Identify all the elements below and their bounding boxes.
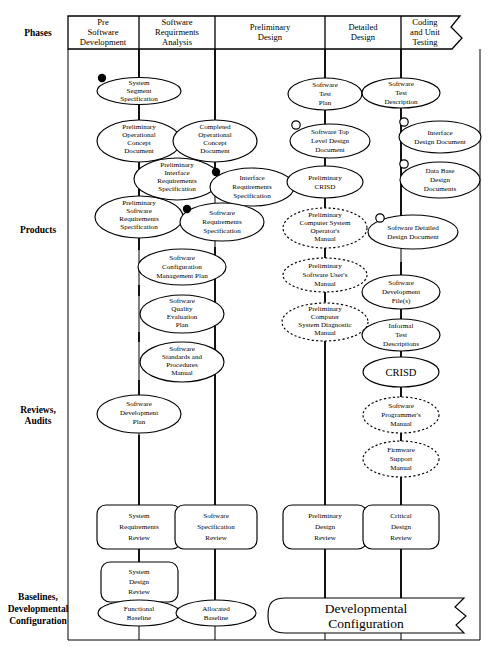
phase-line-2: Software [87,27,118,37]
node-line: Evaluation [167,313,198,321]
product-node-preliminary-computer-system-diagnostic-manual[interactable]: Preliminary Computer System Diagnostic M… [282,303,368,341]
node-line: Test [395,89,407,97]
node-line: Requirements [119,523,159,531]
node-line: Procedures [166,361,198,369]
filled-marker-icon [212,168,220,176]
node-line: Software [388,279,414,287]
baseline-node-functional-baseline[interactable]: Functional Baseline [98,600,180,626]
product-node-software-standards-and-procedures-manual[interactable]: Software Standards and Procedures Manual [140,342,224,382]
lifecycle-diagram: Pre Software Development Software Requir… [0,0,496,653]
node-line: Preliminary [308,174,342,182]
product-node-software-quality-evaluation-plan[interactable]: Software Quality Evaluation Plan [140,295,224,333]
filled-marker-icon [98,74,106,82]
product-node-system-segment-specification[interactable]: System Segment Specification [97,74,181,105]
node-line: Segment [127,87,152,95]
node-line: Critical [390,512,411,520]
product-node-software-test-description[interactable]: Software Test Description [362,78,440,108]
product-node-preliminary-crisd[interactable]: Preliminary CRISD [287,166,363,198]
node-line: Preliminary [308,305,342,313]
product-node-software-requirements-specification[interactable]: Software Requirements Specification [180,203,264,241]
phase-line-1: Preliminary [250,22,291,32]
node-line: Level Design [311,137,349,145]
product-node-software-configuration-management-plan[interactable]: Software Configuration Management Plan [138,249,226,285]
baseline-node-allocated-baseline[interactable]: Allocated Baseline [176,600,256,626]
node-line: Requirements [119,215,159,223]
product-node-software-development-files[interactable]: Software Development File(s) [362,275,440,309]
node-line: Software [169,297,195,305]
product-node-informal-test-descriptions[interactable]: Informal Test Descriptions [362,319,440,351]
node-line: CRISD [315,183,336,191]
node-line: Manual [314,280,336,288]
product-node-data-base-design-documents[interactable]: Data Base Design Documents [400,160,480,198]
phase-line-2: and Unit [410,27,440,37]
product-node-preliminary-operational-concept-document[interactable]: Preliminary Operational Concept Document [97,120,181,162]
product-node-interface-design-document[interactable]: Interface Design Document [399,118,481,153]
product-node-software-top-level-design-document[interactable]: Software Top Level Design Document [290,121,370,158]
node-line: Development [382,288,420,296]
product-node-preliminary-software-users-manual[interactable]: Preliminary Software User's Manual [283,258,367,292]
node-line: System [129,512,150,520]
node-line: Descriptions [383,340,419,348]
node-line: Document [124,147,154,155]
review-node-system-requirements-review[interactable]: System Requirements Review [97,505,181,549]
node-line: Design Document [414,138,465,146]
node-line: Software [203,512,229,520]
node-line: Preliminary [308,512,342,520]
node-line: Concept [127,139,151,147]
node-line: System [129,568,150,576]
node-line: Standards and [162,353,202,361]
node-line: Manual [314,235,336,243]
node-line: Preliminary [308,211,342,219]
node-line: Configuration [328,616,404,631]
phase-line-1: Detailed [348,22,378,32]
node-line: Software [388,80,414,88]
node-line: Specification [233,192,271,200]
product-node-software-programmers-manual[interactable]: Software Programmer's Manual [363,397,439,433]
node-line: Manual [314,329,336,337]
product-node-firmware-support-manual[interactable]: Firmware Support Manual [363,441,439,477]
node-line: Computer [311,313,340,321]
baseline-node-developmental-configuration[interactable]: Developmental Configuration [268,598,466,633]
row-label-line-1: Baselines, [18,592,58,602]
product-node-interface-requirements-specification[interactable]: Interface Requirements Specification [210,168,294,206]
product-node-software-test-plan[interactable]: Software Test Plan [288,78,362,110]
node-line: Management Plan [156,272,208,280]
node-line: Firmware [387,446,415,454]
node-line: Software User's [303,271,348,279]
node-line: Design Document [387,233,438,241]
row-label-line-3: Configuration [9,616,67,626]
phase-line-3: Testing [412,37,438,47]
node-line: Baseline [127,614,151,622]
product-node-software-development-plan[interactable]: Software Development Plan [97,395,181,433]
row-label-line-2: Developmental [8,604,69,614]
row-label-baselines: Baselines, Developmental Configuration [8,592,69,626]
review-node-critical-design-review[interactable]: Critical Design Review [363,505,439,549]
product-node-preliminary-computer-system-operators-manual[interactable]: Preliminary Computer System Operator's M… [283,208,367,248]
row-label-products: Products [20,225,57,235]
node-line: Design [391,523,412,531]
phase-line-2: Design [258,32,283,42]
node-line: Operator's [310,227,339,235]
product-node-crisd[interactable]: CRISD [363,357,439,387]
product-node-preliminary-software-requirements-specification[interactable]: Preliminary Software Requirements Specif… [95,196,183,238]
review-node-software-specification-review[interactable]: Software Specification Review [175,505,257,549]
product-node-completed-operational-concept-document[interactable]: Completed Operational Concept Document [173,120,257,162]
node-line: Test [395,331,407,339]
node-line: Specification [120,223,158,231]
product-node-software-detailed-design-document[interactable]: Software Detailed Design Document [368,214,458,249]
node-line: Software [169,254,195,262]
node-line: Specification [120,95,158,103]
node-line: CRISD [386,367,417,378]
open-marker-icon [400,118,408,126]
node-line: Interface [164,169,189,177]
diagram-canvas: Pre Software Development Software Requir… [0,0,496,653]
row-label-phases: Phases [24,28,52,38]
phase-label-preliminary-design: Preliminary Design [250,22,291,42]
review-node-system-design-review[interactable]: System Design Review [101,562,178,602]
node-line: File(s) [392,297,411,305]
row-label-line-1: Reviews, [20,405,56,415]
node-line: Design [430,176,451,184]
product-node-preliminary-interface-requirements-specification[interactable]: Preliminary Interface Requirements Speci… [134,158,220,200]
review-node-preliminary-design-review[interactable]: Preliminary Design Review [283,505,367,549]
node-line: Development [120,409,158,417]
